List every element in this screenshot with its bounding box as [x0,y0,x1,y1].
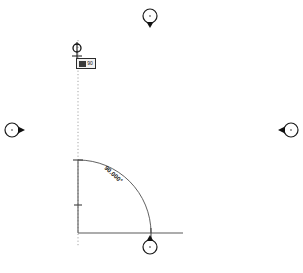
grip-left-arrow-right-icon[interactable] [18,127,25,134]
dimension-value-text: 90 [87,61,93,66]
grip-left-center-dot [11,129,13,131]
value-box-swatch [79,61,86,67]
grip-right[interactable] [278,123,298,137]
grip-bottom-arrow-up-icon[interactable] [147,235,154,241]
dimension-arc[interactable] [78,160,151,233]
grip-top-arrow-down-icon[interactable] [147,22,154,28]
grip-right-arrow-left-icon[interactable] [278,127,285,134]
grip-left[interactable] [5,123,25,137]
grip-top[interactable] [143,9,157,28]
grip-bottom[interactable] [143,235,157,254]
grip-right-center-dot [290,129,292,131]
dimension-value-box[interactable]: 90 [76,58,96,69]
grip-top-center-dot [149,15,151,17]
cad-drawing[interactable] [0,0,303,273]
drawing-canvas[interactable]: 90.000° 90 [0,0,303,273]
grip-bottom-center-dot [149,246,151,248]
